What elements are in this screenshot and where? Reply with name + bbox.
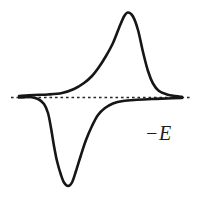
voltammogram-plot bbox=[0, 0, 198, 208]
x-axis-label: −E bbox=[145, 123, 172, 143]
cv-curve-anodic-peak-branch bbox=[19, 13, 182, 97]
voltammogram-figure: −E bbox=[0, 0, 198, 208]
